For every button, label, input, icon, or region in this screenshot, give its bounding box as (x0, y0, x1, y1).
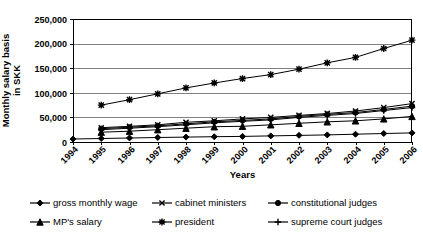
x-tick-label: 2000 (229, 144, 250, 165)
data-point-marker (183, 84, 190, 91)
data-point-marker (352, 54, 359, 61)
y-axis-title-line: in SKK (11, 65, 22, 96)
legend-item-label: MP's salary (53, 216, 102, 227)
x-tick-label: 2004 (342, 144, 363, 165)
data-point-marker (154, 90, 161, 97)
chart-container: 050,000100,000150,000200,000250,00019941… (0, 0, 423, 237)
legend-marker-diamond-icon (37, 200, 43, 206)
legend-item-gross-monthly-wage[interactable]: gross monthly wage (30, 197, 137, 208)
legend-item-mp-s-salary[interactable]: MP's salary (30, 216, 102, 227)
legend-marker-circle-icon (275, 200, 280, 205)
x-tick-label: 1996 (116, 144, 137, 165)
x-tick-label: 1995 (87, 144, 108, 165)
x-tick-label: 1997 (144, 144, 165, 165)
x-tick-label: 1999 (200, 144, 221, 165)
legend-item-label: cabinet ministers (175, 197, 247, 208)
data-point-marker (239, 75, 246, 82)
x-tick-label: 2002 (285, 144, 306, 165)
data-point-marker (296, 66, 303, 73)
x-tick-label: 2005 (370, 144, 391, 165)
legend-item-label: gross monthly wage (53, 197, 137, 208)
data-point-marker (126, 96, 133, 103)
y-axis-title-line: Monthly salary basis (0, 34, 11, 127)
legend-item-label: president (175, 216, 214, 227)
data-point-marker (211, 80, 218, 87)
x-axis-ticks: 1994199519961997199819992000200120022003… (59, 142, 419, 166)
y-tick-label: 250,000 (34, 15, 67, 25)
y-tick-label: 200,000 (34, 39, 67, 49)
x-tick-label: 1998 (172, 144, 193, 165)
data-point-marker (409, 37, 416, 44)
y-tick-label: 150,000 (34, 64, 67, 74)
legend-marker-plus-icon (275, 219, 281, 225)
legend-item-label: supreme court judges (291, 216, 383, 227)
legend-item-label: constitutional judges (291, 197, 377, 208)
y-tick-label: 50,000 (39, 113, 67, 123)
x-tick-label: 2003 (313, 144, 334, 165)
y-tick-label: 0 (62, 138, 67, 148)
legend-item-cabinet-ministers[interactable]: cabinet ministers (152, 197, 247, 208)
data-point-marker (98, 102, 105, 109)
data-point-marker (380, 45, 387, 52)
y-axis-title: Monthly salary basisin SKK (0, 34, 22, 127)
data-point-marker (267, 71, 274, 78)
legend: gross monthly wagecabinet ministersconst… (30, 197, 383, 227)
data-point-marker (324, 59, 331, 66)
y-tick-label: 100,000 (34, 89, 67, 99)
x-tick-label: 2001 (257, 144, 278, 165)
legend-item-supreme-court-judges[interactable]: supreme court judges (268, 216, 383, 227)
legend-item-constitutional-judges[interactable]: constitutional judges (268, 197, 377, 208)
legend-marker-star-icon (159, 219, 166, 226)
legend-item-president[interactable]: president (152, 216, 214, 227)
line-chart: 050,000100,000150,000200,000250,00019941… (0, 0, 423, 237)
x-tick-label: 2006 (398, 144, 419, 165)
x-axis-title: Years (230, 169, 255, 180)
